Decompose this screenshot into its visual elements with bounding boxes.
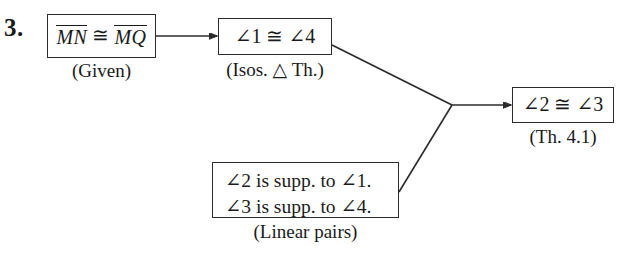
segment-mq: MQ (114, 25, 146, 48)
congruence-symbol: ≅ (87, 24, 114, 48)
box-isosceles-text: ∠1 ≅ ∠4 (235, 25, 316, 49)
caption-isosceles: (Isos. △ Th.) (203, 58, 347, 81)
caption-linear-pairs: (Linear pairs) (212, 221, 399, 243)
segment-mn: MN (56, 25, 87, 48)
box-given: MN ≅ MQ (47, 14, 156, 58)
caption-given: (Given) (47, 60, 156, 82)
box-isosceles: ∠1 ≅ ∠4 (218, 18, 332, 55)
line-isosceles-to-junction (332, 45, 452, 105)
linear-pairs-line-2: ∠3 is supp. to ∠4. (225, 194, 388, 220)
box-conclusion-text: ∠2 ≅ ∠3 (523, 93, 604, 117)
proof-flowchart: 3. MN ≅ MQ (Given) ∠1 ≅ ∠4 (Isos. △ Th.)… (0, 0, 622, 258)
line-linearpairs-to-junction (399, 105, 452, 192)
box-linear-pairs: ∠2 is supp. to ∠1. ∠3 is supp. to ∠4. (212, 162, 399, 218)
box-conclusion: ∠2 ≅ ∠3 (512, 87, 614, 123)
linear-pairs-line-1: ∠2 is supp. to ∠1. (225, 168, 388, 194)
caption-conclusion: (Th. 4.1) (504, 126, 622, 148)
